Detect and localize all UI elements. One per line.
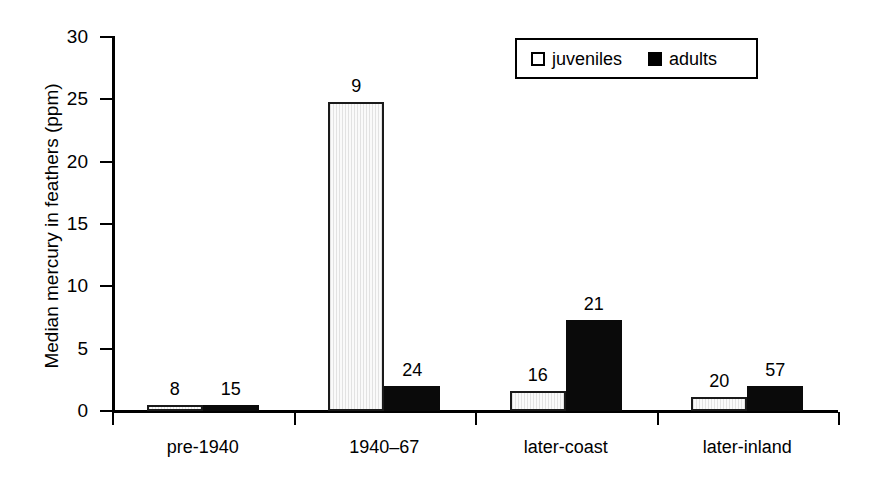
y-axis-tick-label: 10 bbox=[28, 276, 88, 295]
y-axis-tick-mark bbox=[100, 161, 113, 163]
y-axis-tick-label-wrap: 10 bbox=[28, 276, 88, 295]
bar-value-label: 9 bbox=[316, 77, 396, 95]
legend-label: juveniles bbox=[552, 50, 622, 68]
y-axis-tick-mark bbox=[100, 98, 113, 100]
y-axis-tick-label: 0 bbox=[28, 401, 88, 420]
legend-entry-juveniles: juveniles bbox=[531, 50, 622, 68]
bar-juveniles-2 bbox=[510, 391, 566, 411]
bar-value-label: 21 bbox=[554, 295, 634, 313]
bar-value-label: 15 bbox=[191, 380, 271, 398]
legend-label: adults bbox=[669, 50, 717, 68]
bar-adults-1 bbox=[384, 386, 440, 411]
x-axis-tick-mark bbox=[657, 412, 659, 425]
y-axis-tick-label: 25 bbox=[28, 89, 88, 108]
x-axis-label-2: later-coast bbox=[466, 437, 666, 457]
y-axis-tick-mark bbox=[100, 348, 113, 350]
bar-adults-0 bbox=[203, 405, 259, 411]
y-axis-tick-label-wrap: 15 bbox=[28, 214, 88, 233]
x-axis-tick-mark bbox=[294, 412, 296, 425]
bar-value-label: 57 bbox=[735, 361, 815, 379]
x-axis-label-3: later-inland bbox=[647, 437, 847, 457]
x-axis-label-0: pre-1940 bbox=[103, 437, 303, 457]
legend-entry-adults: adults bbox=[648, 50, 717, 68]
y-axis-tick-label-wrap: 30 bbox=[28, 27, 88, 46]
bar-juveniles-0 bbox=[147, 405, 203, 411]
y-axis-tick-mark bbox=[100, 36, 113, 38]
x-axis-tick-mark bbox=[838, 412, 840, 425]
bar-value-label: 24 bbox=[372, 361, 452, 379]
y-axis-tick-mark bbox=[100, 285, 113, 287]
x-axis-tick-mark bbox=[475, 412, 477, 425]
y-axis-tick-mark bbox=[100, 223, 113, 225]
y-axis-tick-label: 30 bbox=[28, 27, 88, 46]
bar-adults-3 bbox=[747, 386, 803, 411]
y-axis-tick-label-wrap: 25 bbox=[28, 89, 88, 108]
y-axis-tick-label: 20 bbox=[28, 152, 88, 171]
bar-juveniles-3 bbox=[691, 397, 747, 411]
y-axis-tick-label-wrap: 5 bbox=[28, 339, 88, 358]
bar-chart: Median mercury in feathers (ppm) 3025201… bbox=[0, 0, 879, 484]
bar-adults-2 bbox=[566, 320, 622, 411]
y-axis-tick-label: 15 bbox=[28, 214, 88, 233]
y-axis-tick-label: 5 bbox=[28, 339, 88, 358]
y-axis-tick-label-wrap: 0 bbox=[28, 401, 88, 420]
filled-square-icon bbox=[648, 52, 662, 66]
x-axis-tick-mark bbox=[112, 412, 114, 425]
x-axis-label-1: 1940–67 bbox=[284, 437, 484, 457]
y-axis-tick-label-wrap: 20 bbox=[28, 152, 88, 171]
open-square-icon bbox=[531, 52, 545, 66]
chart-legend: juvenilesadults bbox=[515, 38, 758, 79]
